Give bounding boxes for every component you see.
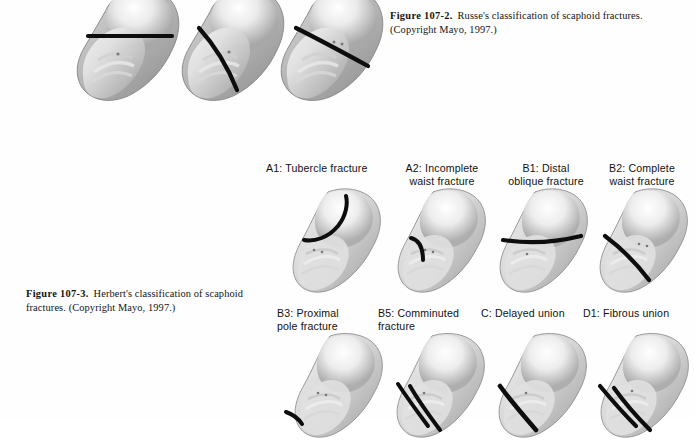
herbert-label-a1: A1: Tubercle fracture xyxy=(266,162,388,175)
herbert-label-a2-line1: A2: Incomplete xyxy=(390,162,494,175)
herbert-label-b3-line1: B3: Proximal xyxy=(277,307,385,320)
figure-107-3-caption: Figure 107-3.Herbert's classification of… xyxy=(26,287,256,314)
bone-b2-complete-waist xyxy=(587,182,695,297)
figure-107-3-lead: Figure 107-3. xyxy=(26,288,89,299)
herbert-label-a1-line1: A1: Tubercle fracture xyxy=(266,162,388,175)
figure-107-2-caption: Figure 107-2.Russe's classification of s… xyxy=(390,9,690,36)
herbert-label-b2-line1: B2: Complete xyxy=(592,162,692,175)
bone-d1-fibrous-union xyxy=(588,330,695,442)
figure-107-2-credit: (Copyright Mayo, 1997.) xyxy=(390,24,497,35)
figure-107-3-credit: (Copyright Mayo, 1997.) xyxy=(69,302,176,313)
herbert-label-d1: D1: Fibrous union xyxy=(583,307,695,320)
figure-107-2-text: Russe's classification of scaphoid fract… xyxy=(458,10,643,21)
herbert-label-d1-line1: D1: Fibrous union xyxy=(583,307,695,320)
herbert-label-c-line1: C: Delayed union xyxy=(481,307,593,320)
herbert-label-b1-line1: B1: Distal xyxy=(494,162,598,175)
herbert-label-b3: B3: Proximal pole fracture xyxy=(277,307,385,332)
bone-a1-tubercle xyxy=(280,182,400,297)
herbert-label-b5: B5: Comminuted fracture xyxy=(378,307,490,332)
herbert-label-c: C: Delayed union xyxy=(481,307,593,320)
figure-107-2-lead: Figure 107-2. xyxy=(390,10,453,21)
herbert-label-b5-line1: B5: Comminuted xyxy=(378,307,490,320)
